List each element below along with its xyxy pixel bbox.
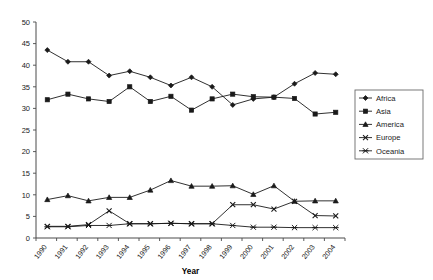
data-point-africa bbox=[45, 48, 50, 53]
data-point-asia bbox=[86, 97, 90, 101]
x-tick-label: 2001 bbox=[259, 243, 276, 261]
series-america bbox=[45, 178, 339, 203]
data-point-africa bbox=[86, 59, 91, 64]
y-tick-label: 20 bbox=[22, 147, 30, 156]
data-point-asia bbox=[169, 94, 173, 98]
data-point-oceania bbox=[250, 225, 256, 230]
y-tick-label: 0 bbox=[26, 234, 30, 243]
y-tick-label: 40 bbox=[22, 61, 30, 70]
y-tick-label: 10 bbox=[22, 191, 30, 200]
data-point-africa bbox=[148, 75, 153, 80]
legend-label: America bbox=[376, 120, 405, 129]
chart-container: 0510152025303540455019901991199219931994… bbox=[0, 0, 433, 280]
data-point-africa bbox=[313, 70, 318, 75]
data-point-oceania bbox=[106, 223, 112, 228]
x-tick-label: 1992 bbox=[73, 243, 90, 261]
x-tick-label: 1990 bbox=[32, 243, 49, 261]
data-point-asia bbox=[292, 96, 296, 100]
data-point-asia bbox=[231, 92, 235, 96]
data-point-africa bbox=[292, 81, 297, 86]
y-tick-label: 15 bbox=[22, 169, 30, 178]
data-point-oceania bbox=[271, 225, 277, 230]
legend-label: Asia bbox=[376, 107, 392, 116]
legend-label: Africa bbox=[376, 94, 396, 103]
data-point-oceania bbox=[292, 225, 298, 230]
y-axis-ticks: 05101520253035404550 bbox=[22, 18, 36, 243]
data-point-oceania bbox=[168, 221, 174, 226]
line-chart: 0510152025303540455019901991199219931994… bbox=[0, 0, 433, 280]
data-point-oceania bbox=[189, 221, 195, 226]
x-tick-label: 2002 bbox=[279, 243, 296, 261]
data-point-asia bbox=[251, 95, 255, 99]
y-tick-label: 30 bbox=[22, 104, 30, 113]
data-point-africa bbox=[168, 83, 173, 88]
data-point-america bbox=[251, 192, 256, 197]
x-tick-label: 2000 bbox=[238, 243, 255, 261]
data-point-oceania bbox=[127, 221, 133, 226]
x-tick-label: 1997 bbox=[176, 243, 193, 261]
data-point-america bbox=[271, 183, 276, 188]
data-point-asia bbox=[148, 99, 152, 103]
data-point-oceania bbox=[147, 221, 153, 226]
y-tick-label: 50 bbox=[22, 18, 30, 27]
data-point-europe bbox=[107, 208, 112, 213]
data-point-africa bbox=[127, 69, 132, 74]
x-tick-label: 1993 bbox=[94, 243, 111, 261]
series-asia bbox=[45, 85, 338, 116]
data-point-oceania bbox=[312, 225, 318, 230]
data-point-oceania bbox=[44, 224, 50, 229]
y-tick-label: 35 bbox=[22, 83, 30, 92]
data-point-asia bbox=[313, 112, 317, 116]
x-tick-label: 2003 bbox=[300, 243, 317, 261]
data-point-africa bbox=[189, 75, 194, 80]
legend-label: Oceania bbox=[376, 147, 405, 156]
data-point-oceania bbox=[65, 224, 71, 229]
legend: AfricaAsiaAmericaEuropeOceania bbox=[355, 90, 423, 159]
data-point-oceania bbox=[230, 223, 236, 228]
data-point-america bbox=[65, 193, 70, 198]
data-point-africa bbox=[65, 59, 70, 64]
data-point-asia bbox=[66, 92, 70, 96]
data-point-oceania bbox=[86, 223, 92, 228]
x-tick-label: 1994 bbox=[114, 243, 131, 261]
x-tick-label: 1991 bbox=[53, 243, 70, 261]
axes bbox=[36, 22, 345, 238]
data-point-africa bbox=[107, 73, 112, 78]
x-axis-title: Year bbox=[182, 267, 200, 276]
y-tick-label: 45 bbox=[22, 39, 30, 48]
y-tick-label: 5 bbox=[26, 212, 30, 221]
data-point-asia bbox=[334, 110, 338, 114]
data-point-legend-asia bbox=[363, 109, 367, 113]
x-tick-label: 1996 bbox=[156, 243, 173, 261]
data-point-oceania bbox=[209, 221, 215, 226]
data-point-oceania bbox=[333, 225, 339, 230]
x-tick-label: 1999 bbox=[217, 243, 234, 261]
data-point-asia bbox=[128, 85, 132, 89]
data-point-asia bbox=[45, 98, 49, 102]
x-tick-label: 2004 bbox=[320, 243, 337, 261]
x-tick-label: 1995 bbox=[135, 243, 152, 261]
series-oceania bbox=[44, 221, 338, 231]
legend-label: Europe bbox=[376, 133, 401, 142]
data-point-asia bbox=[107, 99, 111, 103]
data-point-america bbox=[148, 187, 153, 192]
data-point-america bbox=[168, 178, 173, 183]
data-point-asia bbox=[272, 95, 276, 99]
y-tick-label: 25 bbox=[22, 126, 30, 135]
data-point-asia bbox=[210, 97, 214, 101]
x-tick-label: 1998 bbox=[197, 243, 214, 261]
x-axis-ticks: 1990199119921993199419951996199719981999… bbox=[32, 238, 345, 261]
data-point-asia bbox=[189, 108, 193, 112]
data-point-africa bbox=[333, 72, 338, 77]
